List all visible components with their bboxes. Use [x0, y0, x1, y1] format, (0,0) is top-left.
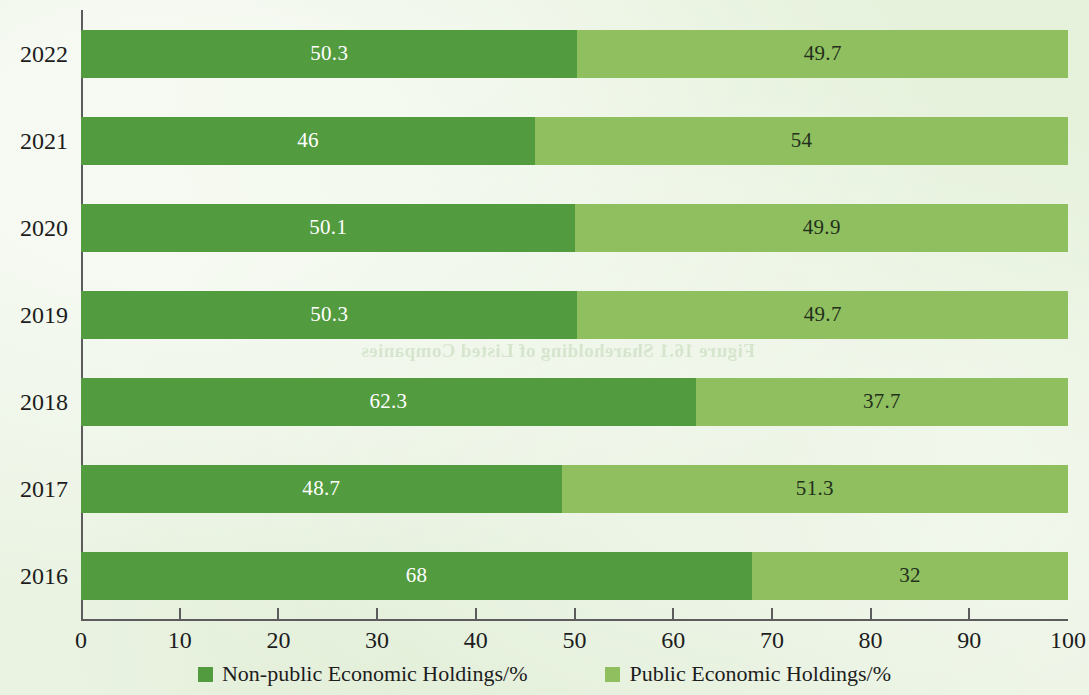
bar-value-label: 62.3: [369, 391, 407, 412]
x-axis-tick-label: 90: [957, 628, 981, 652]
x-axis-tick: [968, 608, 970, 619]
bar-row: 6832: [81, 552, 1068, 600]
bar-row: 50.349.7: [81, 30, 1068, 78]
chart-legend: Non-public Economic Holdings/%Public Eco…: [0, 663, 1089, 685]
x-axis-tick-label: 50: [563, 628, 587, 652]
bar-value-label: 32: [899, 565, 921, 586]
y-axis-label: 2019: [0, 303, 68, 327]
bar-value-label: 48.7: [302, 478, 340, 499]
bar-segment: 51.3: [562, 465, 1068, 513]
x-axis-tick: [277, 608, 279, 619]
x-axis-tick: [574, 608, 576, 619]
y-axis-label: 2016: [0, 564, 68, 588]
bar-row: 48.751.3: [81, 465, 1068, 513]
bar-value-label: 68: [406, 565, 428, 586]
bar-segment: 32: [752, 552, 1068, 600]
bar-value-label: 50.3: [310, 304, 348, 325]
bar-row: 4654: [81, 117, 1068, 165]
plot-area: 50.349.7465450.149.950.349.762.337.748.7…: [81, 10, 1068, 621]
bar-segment: 50.3: [81, 30, 577, 78]
bar-segment: 68: [81, 552, 752, 600]
bar-segment: 49.7: [577, 30, 1068, 78]
legend-label: Public Economic Holdings/%: [629, 663, 891, 685]
x-axis-tick: [475, 608, 477, 619]
bar-segment: 48.7: [81, 465, 562, 513]
x-axis-tick-label: 20: [266, 628, 290, 652]
x-axis-line: [81, 619, 1068, 621]
bar-value-label: 51.3: [796, 478, 834, 499]
bar-value-label: 50.1: [309, 217, 347, 238]
stacked-bar-chart: 50.349.7465450.149.950.349.762.337.748.7…: [0, 0, 1089, 695]
x-axis-tick: [376, 608, 378, 619]
bar-value-label: 50.3: [310, 43, 348, 64]
y-axis-label: 2021: [0, 129, 68, 153]
bar-segment: 50.1: [81, 204, 575, 252]
x-axis-tick: [870, 608, 872, 619]
x-axis-tick-label: 60: [661, 628, 685, 652]
bar-value-label: 46: [297, 130, 319, 151]
legend-item: Public Economic Holdings/%: [605, 663, 891, 685]
bar-row: 62.337.7: [81, 378, 1068, 426]
legend-swatch-icon: [198, 667, 213, 682]
legend-label: Non-public Economic Holdings/%: [222, 663, 528, 685]
bar-segment: 46: [81, 117, 535, 165]
x-axis-tick-label: 80: [859, 628, 883, 652]
bar-segment: 62.3: [81, 378, 696, 426]
bar-value-label: 54: [791, 130, 813, 151]
legend-swatch-icon: [605, 667, 620, 682]
bar-value-label: 49.7: [804, 304, 842, 325]
x-axis-tick-label: 100: [1050, 628, 1086, 652]
legend-item: Non-public Economic Holdings/%: [198, 663, 528, 685]
bar-segment: 49.7: [577, 291, 1068, 339]
bar-rows: 50.349.7465450.149.950.349.762.337.748.7…: [81, 10, 1068, 619]
x-axis-tick: [672, 608, 674, 619]
x-axis-tick-label: 0: [75, 628, 87, 652]
x-axis-tick-label: 40: [464, 628, 488, 652]
bar-row: 50.349.7: [81, 291, 1068, 339]
x-axis-tick-label: 10: [168, 628, 192, 652]
bar-value-label: 49.9: [803, 217, 841, 238]
x-axis-tick-label: 70: [760, 628, 784, 652]
bar-segment: 37.7: [696, 378, 1068, 426]
bar-value-label: 37.7: [863, 391, 901, 412]
x-axis-tick: [179, 608, 181, 619]
x-axis-tick: [771, 608, 773, 619]
bar-segment: 50.3: [81, 291, 577, 339]
bar-segment: 49.9: [575, 204, 1068, 252]
bar-value-label: 49.7: [804, 43, 842, 64]
y-axis-label: 2018: [0, 390, 68, 414]
bar-row: 50.149.9: [81, 204, 1068, 252]
x-axis-tick-label: 30: [365, 628, 389, 652]
y-axis-label: 2022: [0, 42, 68, 66]
y-axis-label: 2020: [0, 216, 68, 240]
bar-segment: 54: [535, 117, 1068, 165]
y-axis-label: 2017: [0, 477, 68, 501]
